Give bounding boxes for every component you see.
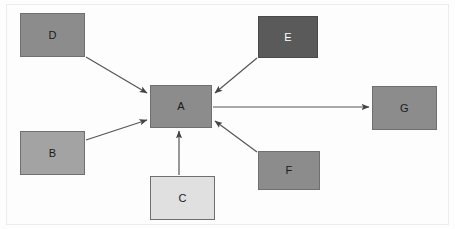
node-e[interactable]: E — [258, 16, 318, 58]
node-d-label: D — [48, 30, 56, 41]
node-d[interactable]: D — [20, 13, 85, 57]
node-f-label: F — [286, 165, 293, 176]
edges-group — [86, 57, 369, 175]
edge-b-to-a — [86, 120, 147, 140]
diagram-canvas: A B C D E F G — [0, 0, 455, 229]
node-g-label: G — [400, 103, 409, 114]
node-e-label: E — [284, 32, 292, 43]
edge-f-to-a — [215, 121, 257, 152]
node-f[interactable]: F — [258, 151, 320, 190]
node-b[interactable]: B — [20, 131, 85, 175]
node-g[interactable]: G — [372, 86, 437, 130]
node-c[interactable]: C — [150, 176, 215, 220]
node-a-label: A — [177, 101, 185, 112]
edge-e-to-a — [215, 58, 257, 93]
node-a[interactable]: A — [150, 85, 212, 128]
node-b-label: B — [49, 148, 57, 159]
node-c-label: C — [178, 193, 186, 204]
edge-d-to-a — [86, 57, 147, 93]
